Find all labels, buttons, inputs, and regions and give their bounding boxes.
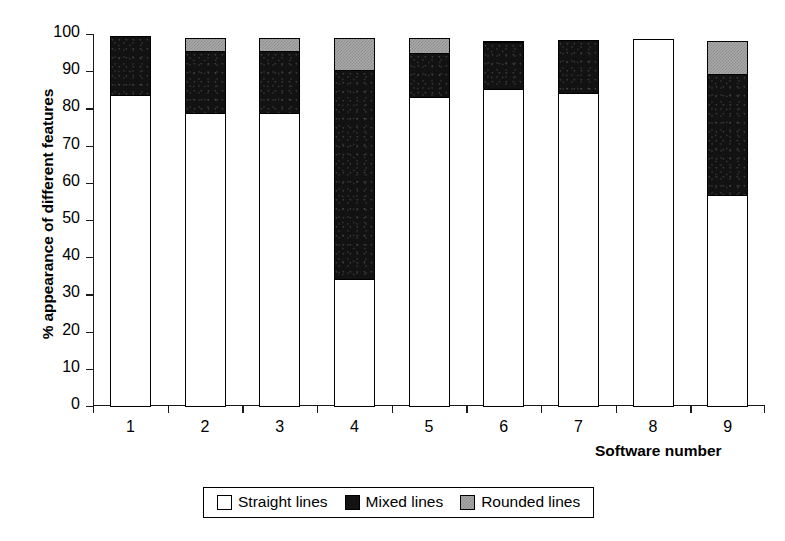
bar-column[interactable] [409, 38, 450, 406]
bar-segment-straight[interactable] [409, 97, 450, 408]
bar-segment-mixed[interactable] [334, 70, 375, 280]
bar-segment-mixed[interactable] [259, 51, 300, 114]
bar-segment-straight[interactable] [110, 95, 151, 407]
bar-column[interactable] [707, 41, 748, 406]
bar-segment-straight[interactable] [185, 113, 226, 407]
y-tick-label: 40 [40, 246, 80, 264]
bar-column[interactable] [334, 38, 375, 406]
y-tick: 0 [86, 406, 93, 407]
bar-column[interactable] [110, 36, 151, 406]
y-tick: 10 [86, 369, 93, 370]
x-tick-label: 9 [713, 418, 743, 436]
x-tick [541, 406, 542, 413]
bar-segment-straight[interactable] [483, 89, 524, 407]
bar-segment-rounded[interactable] [185, 38, 226, 53]
y-tick-label: 50 [40, 209, 80, 227]
legend-label: Straight lines [238, 493, 328, 511]
legend-item[interactable]: Rounded lines [460, 493, 580, 511]
y-axis-line [93, 34, 94, 406]
x-tick [93, 406, 94, 413]
bar-segment-rounded[interactable] [259, 38, 300, 53]
y-tick-label: 0 [40, 395, 80, 413]
x-tick [764, 406, 765, 413]
bar-segment-straight[interactable] [558, 93, 599, 407]
bar-segment-mixed[interactable] [409, 53, 450, 98]
y-tick-label: 60 [40, 172, 80, 190]
bar-segment-mixed[interactable] [707, 74, 748, 197]
bar-segment-mixed[interactable] [185, 51, 226, 114]
bar-column[interactable] [558, 40, 599, 406]
y-tick: 70 [86, 146, 93, 147]
x-tick-label: 1 [115, 418, 145, 436]
bar-segment-rounded[interactable] [334, 38, 375, 71]
bar-segment-mixed[interactable] [110, 36, 151, 96]
legend-label: Rounded lines [481, 493, 580, 511]
stacked-bar-chart: % appearance of different features 01020… [0, 0, 785, 541]
gray-square-icon [460, 495, 475, 510]
white-square-icon [217, 495, 232, 510]
y-tick: 50 [86, 220, 93, 221]
y-tick: 60 [86, 183, 93, 184]
bar-segment-mixed[interactable] [558, 40, 599, 94]
y-tick: 90 [86, 71, 93, 72]
y-tick-label: 20 [40, 321, 80, 339]
bar-segment-straight[interactable] [707, 195, 748, 407]
legend-item[interactable]: Straight lines [217, 493, 328, 511]
y-tick-label: 90 [40, 60, 80, 78]
x-tick [392, 406, 393, 413]
bar-segment-rounded[interactable] [707, 41, 748, 74]
y-tick-label: 10 [40, 358, 80, 376]
x-tick [168, 406, 169, 413]
y-tick-label: 80 [40, 97, 80, 115]
bar-column[interactable] [633, 39, 674, 406]
bar-segment-straight[interactable] [334, 279, 375, 407]
y-tick: 30 [86, 294, 93, 295]
x-tick-label: 4 [339, 418, 369, 436]
plot-area: 0102030405060708090100 123456789 [93, 34, 765, 406]
x-tick-label: 8 [638, 418, 668, 436]
y-tick: 20 [86, 332, 93, 333]
y-tick: 100 [86, 34, 93, 35]
legend-label: Mixed lines [366, 493, 444, 511]
bar-segment-rounded[interactable] [409, 38, 450, 55]
x-tick-label: 5 [414, 418, 444, 436]
y-tick: 80 [86, 108, 93, 109]
x-tick [616, 406, 617, 413]
bar-segment-straight[interactable] [259, 113, 300, 407]
x-tick [466, 406, 467, 413]
bar-column[interactable] [185, 38, 226, 406]
y-tick: 40 [86, 257, 93, 258]
x-tick-label: 2 [190, 418, 220, 436]
bar-segment-straight[interactable] [633, 39, 674, 407]
black-square-icon [345, 495, 360, 510]
x-tick-label: 6 [489, 418, 519, 436]
bar-column[interactable] [259, 38, 300, 406]
x-tick [690, 406, 691, 413]
y-tick-label: 100 [40, 23, 80, 41]
y-tick-label: 70 [40, 135, 80, 153]
x-tick [317, 406, 318, 413]
chart-legend: Straight linesMixed linesRounded lines [203, 487, 594, 518]
x-tick-label: 7 [563, 418, 593, 436]
y-tick-label: 30 [40, 283, 80, 301]
x-tick-label: 3 [265, 418, 295, 436]
bar-column[interactable] [483, 41, 524, 406]
x-tick [242, 406, 243, 413]
x-axis-title: Software number [595, 442, 722, 460]
legend-item[interactable]: Mixed lines [345, 493, 444, 511]
bar-segment-mixed[interactable] [483, 42, 524, 90]
